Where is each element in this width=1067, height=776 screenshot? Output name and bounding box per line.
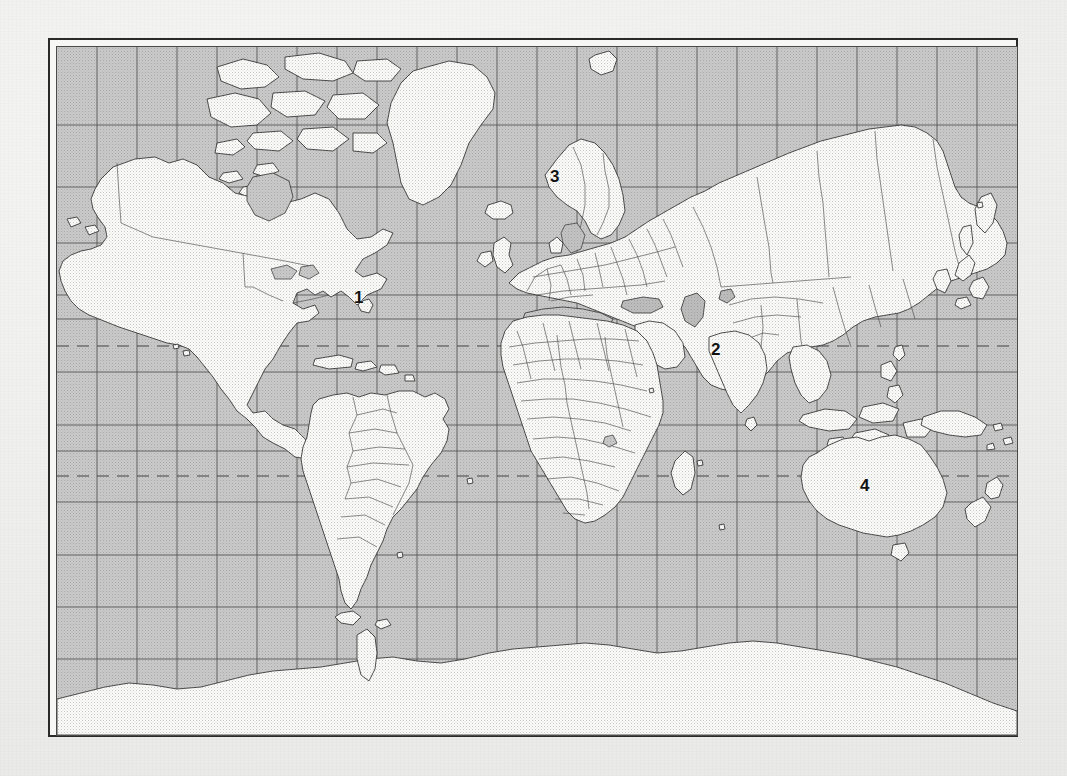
map-geometry [57, 47, 1017, 735]
aleutian-islands [67, 217, 99, 235]
map-label-4: 4 [860, 477, 869, 494]
south-america [301, 391, 449, 609]
map-label-1: 1 [354, 289, 363, 306]
australia [801, 435, 947, 537]
greenland [387, 61, 495, 205]
great-britain [493, 237, 513, 273]
philippines [881, 361, 903, 403]
denmark [549, 237, 563, 253]
africa [501, 315, 663, 523]
world-map[interactable] [57, 47, 1017, 735]
map-viewport: 1 2 3 4 [56, 46, 1018, 736]
baltic-sea [561, 223, 585, 253]
taiwan [893, 345, 905, 361]
antarctica [57, 641, 1017, 735]
iceland [485, 201, 513, 219]
map-label-3: 3 [550, 168, 559, 185]
tasmania [891, 543, 909, 561]
melanesia-islands [987, 423, 1013, 450]
ireland [477, 251, 493, 267]
indochina [789, 345, 831, 403]
tierra-del-fuego [335, 611, 361, 625]
madagascar [671, 451, 695, 495]
sri-lanka [745, 417, 757, 431]
caribbean-islands [313, 355, 415, 381]
map-label-2: 2 [711, 341, 720, 358]
svalbard [589, 51, 617, 75]
